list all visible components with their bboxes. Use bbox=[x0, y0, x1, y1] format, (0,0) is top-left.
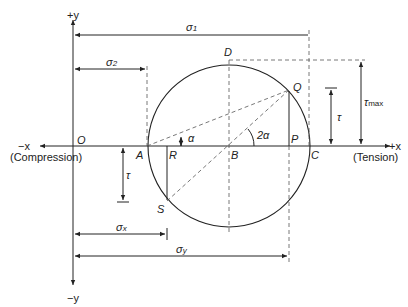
two-alpha-arc bbox=[248, 129, 254, 146]
two-alpha-label: 2α bbox=[257, 130, 269, 141]
sigmay-label: σy bbox=[176, 244, 187, 255]
tension-label: (Tension) bbox=[353, 152, 398, 163]
sigma2-label: σ2 bbox=[106, 57, 117, 68]
tau-upper-label: τ bbox=[337, 112, 341, 123]
origin-label: O bbox=[77, 135, 86, 146]
tau-max-label: τmax bbox=[364, 97, 383, 108]
point-B-label: B bbox=[231, 150, 238, 161]
point-D-label: D bbox=[224, 47, 232, 58]
compression-label: (Compression) bbox=[10, 152, 82, 163]
point-P-label: P bbox=[291, 134, 298, 145]
point-A-label: A bbox=[136, 150, 143, 161]
neg-y-label: −y bbox=[67, 293, 79, 304]
tau-lower-label: τ bbox=[126, 170, 130, 181]
point-Q-label: Q bbox=[293, 82, 302, 93]
sigmax-label: σx bbox=[116, 222, 127, 233]
pos-y-label: +y bbox=[67, 10, 79, 21]
point-C-label: C bbox=[311, 150, 319, 161]
point-S-label: S bbox=[157, 204, 164, 215]
alpha-label: α bbox=[188, 133, 194, 144]
sigma1-label: σ1 bbox=[186, 22, 197, 33]
point-R-label: R bbox=[169, 150, 177, 161]
